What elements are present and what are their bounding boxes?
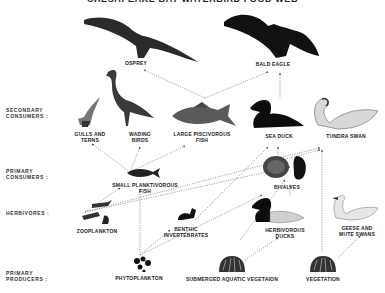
label-bivalves: BIVALVES (274, 184, 300, 190)
osprey-icon (82, 14, 200, 64)
label-osprey: OSPREY (125, 60, 147, 66)
benthic-invertebrate-icon (178, 208, 198, 222)
label-sea-duck: SEA DUCK (265, 133, 293, 139)
gull-icon (74, 95, 104, 129)
wading-bird-icon (104, 68, 156, 128)
label-vegetation: VEGETATION (306, 276, 340, 282)
label-submerged-aquatic-vegetation: SUBMERGED AQUATIC VEGETAION (186, 276, 278, 282)
phytoplankton-icon (132, 256, 152, 272)
label-gulls-and-terns: GULLS AND TERNS (75, 131, 106, 143)
label-zooplankton: ZOOPLANKTON (77, 228, 118, 234)
herbivorous-duck-icon (252, 198, 306, 224)
tundra-swan-icon (310, 97, 380, 131)
goose-icon (330, 194, 380, 222)
sea-duck-icon (250, 100, 306, 130)
label-herbivorous-ducks: HERBIVOROUS DUCKS (265, 227, 304, 239)
label-phytoplankton: PHYTOPLANKTON (115, 275, 162, 281)
label-large-piscivorous-fish: LARGE PISCIVOROUS FISH (173, 131, 230, 143)
sav-icon (217, 254, 247, 274)
large-fish-icon (172, 102, 238, 128)
label-wading-birds: WADING BIRDS (129, 131, 151, 143)
label-small-planktivorous-fish: SMALL PLANKTIVOROUS FISH (112, 182, 178, 194)
label-bald-eagle: BALD EAGLE (256, 61, 291, 67)
bivalves-icon (262, 154, 310, 182)
label-tundra-swan: TUNDRA SWAN (326, 133, 366, 139)
label-geese-and-mute-swans: GEESE AND MUTE SWANS (339, 225, 375, 237)
zooplankton-icon (80, 198, 116, 226)
small-fish-icon (127, 168, 161, 178)
label-benthic-invertebrates: BENTHIC INVERTEBRATES (164, 226, 208, 238)
vegetation-icon (308, 254, 338, 274)
bald-eagle-icon (224, 10, 320, 60)
